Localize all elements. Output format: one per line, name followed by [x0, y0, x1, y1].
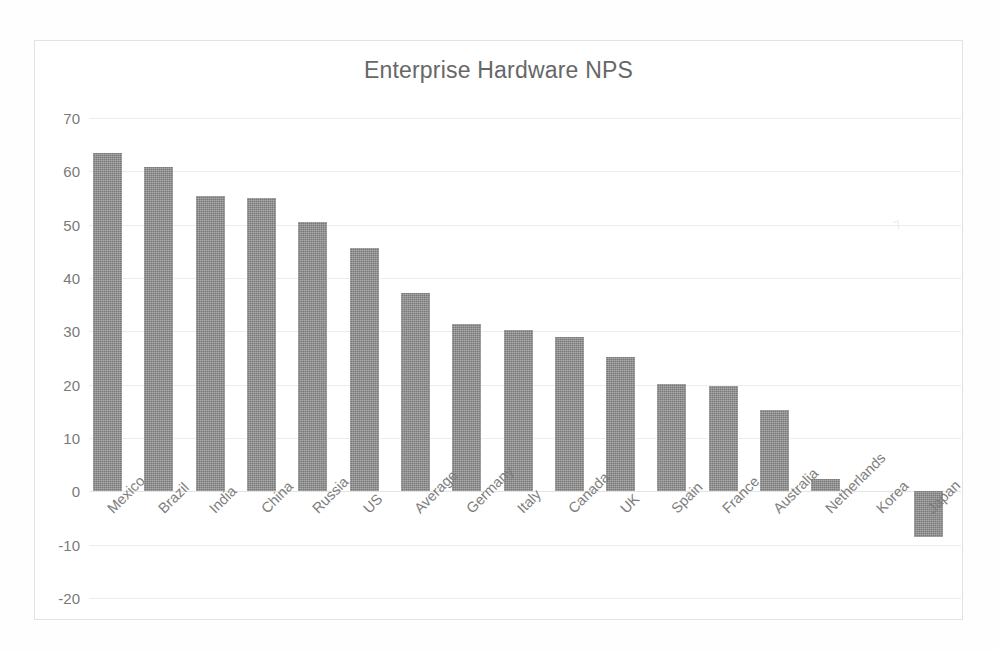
y-axis-tick: 30	[63, 323, 80, 340]
y-axis-tick: -20	[58, 590, 80, 607]
y-axis-tick: 70	[63, 110, 80, 127]
y-axis-tick: 40	[63, 270, 80, 287]
y-axis-tick: -10	[58, 536, 80, 553]
bar-us	[350, 248, 379, 491]
bar-india	[196, 196, 225, 491]
bar-spain	[657, 384, 686, 492]
y-axis-tick: 20	[63, 376, 80, 393]
scanned-page: Enterprise Hardware NPS ⁊ 70605040302010…	[0, 0, 999, 651]
bar-series	[89, 118, 961, 598]
chart-title: Enterprise Hardware NPS	[35, 57, 962, 84]
bar-mexico	[93, 153, 122, 491]
y-axis-tick: 0	[72, 483, 80, 500]
y-axis-tick: 10	[63, 430, 80, 447]
plot-area: 706050403020100-10-20 MexicoBrazilIndiaC…	[89, 118, 961, 598]
chart-frame: Enterprise Hardware NPS ⁊ 70605040302010…	[34, 40, 963, 620]
bar-russia	[298, 222, 327, 491]
bar-average	[401, 293, 430, 491]
bar-canada	[555, 337, 584, 491]
bar-japan	[914, 491, 943, 536]
bar-uk	[606, 357, 635, 491]
bar-australia	[760, 410, 789, 491]
bar-germany	[452, 324, 481, 491]
bar-netherlands	[811, 479, 840, 492]
y-axis-tick: 50	[63, 216, 80, 233]
y-axis-tick: 60	[63, 163, 80, 180]
gridline	[89, 598, 961, 599]
bar-italy	[504, 330, 533, 492]
bar-china	[247, 198, 276, 491]
bar-france	[709, 386, 738, 492]
bar-brazil	[144, 167, 173, 491]
